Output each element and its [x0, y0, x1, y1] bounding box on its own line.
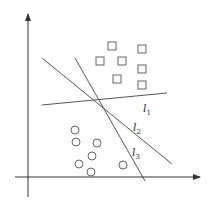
separating-lines: [42, 58, 172, 181]
square-point: [118, 57, 126, 65]
circle-point: [75, 160, 83, 168]
square-point: [138, 45, 146, 53]
circle-point: [119, 161, 127, 169]
separating-lines-diagram: l1l2l3: [0, 0, 214, 202]
label-l1: l1: [143, 102, 151, 117]
square-point: [96, 57, 104, 65]
line-l3: [75, 58, 145, 181]
circle-point: [72, 138, 80, 146]
circle-class-points: [71, 126, 127, 176]
line-labels: l1l2l3: [132, 102, 151, 161]
circle-point: [88, 152, 96, 160]
circle-point: [93, 139, 101, 147]
line-l1: [42, 93, 167, 105]
square-point: [138, 65, 146, 73]
square-point: [108, 42, 116, 50]
label-l3: l3: [132, 146, 140, 161]
label-l2: l2: [133, 121, 141, 136]
circle-point: [71, 126, 79, 134]
line-l2: [42, 58, 172, 164]
square-point: [138, 81, 146, 89]
circle-point: [87, 168, 95, 176]
diagram-canvas: l1l2l3: [0, 0, 214, 202]
square-point: [113, 75, 121, 83]
square-class-points: [96, 42, 146, 89]
